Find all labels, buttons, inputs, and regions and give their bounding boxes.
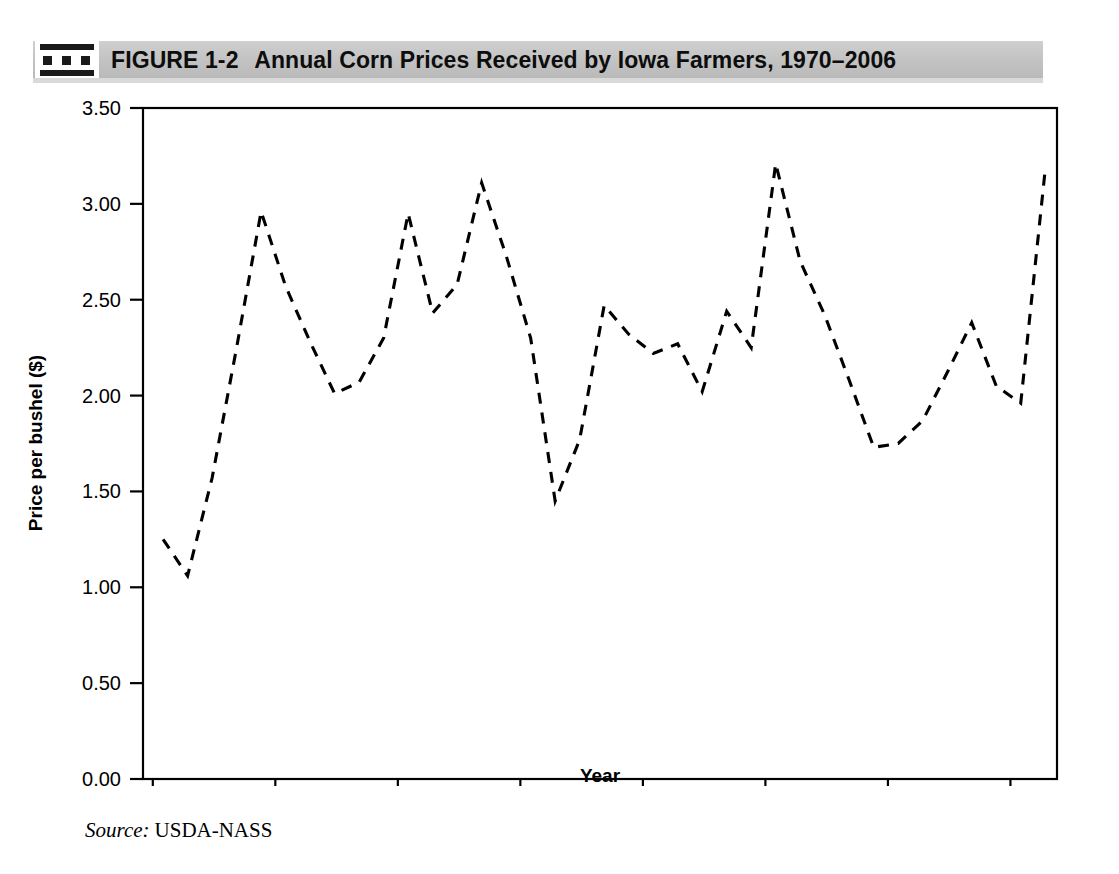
y-tick-label: 0.00	[82, 768, 121, 786]
y-tick-label: 3.50	[82, 97, 121, 119]
y-tick-label: 1.00	[82, 576, 121, 598]
x-axis-title: Year	[580, 765, 621, 786]
source-value: USDA-NASS	[155, 818, 273, 842]
figure-number: FIGURE 1-2	[111, 47, 239, 73]
y-tick-label: 3.00	[82, 193, 121, 215]
filmstrip-bar-bottom	[40, 70, 94, 76]
figure-caption: Annual Corn Prices Received by Iowa Farm…	[254, 47, 896, 73]
filmstrip-bar-top	[40, 44, 94, 50]
line-chart: 0.000.501.001.502.002.503.003.50 1970197…	[0, 86, 1119, 786]
y-axis-tick-labels: 0.000.501.001.502.002.503.003.50	[82, 97, 121, 786]
filmstrip-icon	[35, 41, 99, 79]
y-axis-ticks	[130, 108, 143, 779]
y-tick-label: 2.50	[82, 289, 121, 311]
y-tick-label: 0.50	[82, 672, 121, 694]
figure-header-bar: FIGURE 1-2 Annual Corn Prices Received b…	[33, 41, 1043, 79]
y-tick-label: 1.50	[82, 480, 121, 502]
y-axis-title: Price per bushel ($)	[25, 355, 46, 531]
source-label: Source:	[85, 818, 150, 842]
filmstrip-square-3	[81, 56, 90, 65]
plot-frame	[143, 108, 1057, 779]
y-tick-label: 2.00	[82, 385, 121, 407]
filmstrip-square-1	[43, 56, 52, 65]
chart-figure: 0.000.501.001.502.002.503.003.50 1970197…	[0, 86, 1119, 786]
figure-title: FIGURE 1-2 Annual Corn Prices Received b…	[111, 47, 896, 74]
source-note: Source:USDA-NASS	[85, 818, 272, 843]
filmstrip-square-2	[62, 56, 71, 65]
